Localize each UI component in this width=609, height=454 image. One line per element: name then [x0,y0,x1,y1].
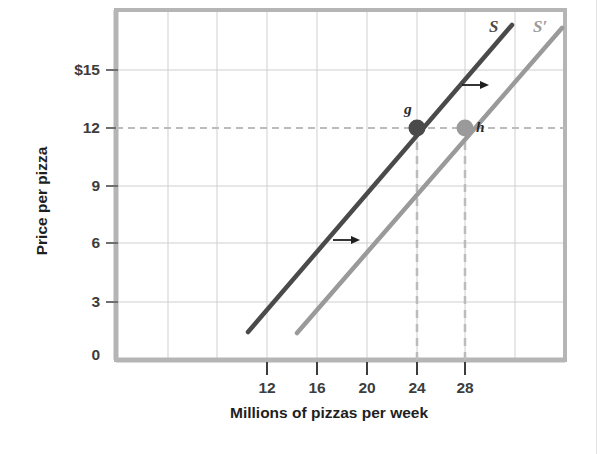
point-label-h: h [476,118,485,136]
plot-background [116,10,565,360]
y-tick-label-0: 0 [44,346,100,364]
y-tick-label-15: $15 [44,61,100,79]
x-tick-label-28: 28 [445,379,485,397]
supply-shift-figure: $15 12 9 6 3 0 12 16 20 24 28 Price per … [0,0,609,454]
x-tick-label-16: 16 [297,379,337,397]
x-tick-label-20: 20 [347,379,387,397]
x-tick-label-12: 12 [247,379,287,397]
y-tick-label-9: 9 [44,177,100,195]
x-axis-title: Millions of pizzas per week [230,404,428,422]
curve-label-s-prime: S′ [533,17,547,37]
equilibrium-point-g [409,120,426,137]
curve-label-s: S [489,17,498,37]
y-tick-label-6: 6 [44,234,100,252]
y-tick-label-12: 12 [44,119,100,137]
point-label-g: g [404,100,412,118]
y-tick-label-3: 3 [44,293,100,311]
x-axis-ticks [267,362,465,375]
y-axis-title: Price per pizza [33,101,51,301]
equilibrium-point-h [457,120,474,137]
x-tick-label-24: 24 [397,379,437,397]
